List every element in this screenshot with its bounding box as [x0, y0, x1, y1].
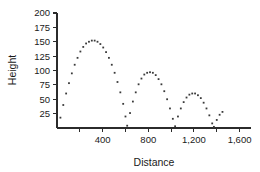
data-point	[211, 123, 213, 125]
data-point	[155, 74, 157, 76]
data-point	[138, 83, 140, 85]
data-point	[216, 119, 218, 121]
data-point	[129, 112, 131, 114]
y-tick-label: 25	[39, 108, 50, 119]
data-point	[71, 72, 73, 74]
data-point	[82, 46, 84, 48]
data-point	[174, 125, 176, 127]
data-point	[143, 74, 145, 76]
data-point	[88, 41, 90, 43]
data-point	[79, 51, 81, 53]
x-axis-title: Distance	[134, 156, 175, 168]
y-tick-label: 50	[39, 94, 50, 105]
data-point	[105, 51, 107, 53]
data-point	[208, 114, 210, 116]
data-point	[222, 111, 224, 113]
data-point	[125, 116, 127, 118]
y-axis-title: Height	[6, 55, 18, 85]
data-point	[97, 41, 99, 43]
data-point	[194, 93, 196, 95]
data-point	[200, 97, 202, 99]
data-point	[203, 102, 205, 104]
data-point	[91, 40, 93, 42]
data-point	[186, 97, 188, 99]
data-point	[62, 104, 64, 106]
data-point-series	[60, 40, 224, 128]
data-point	[183, 101, 185, 103]
y-tick-label: 125	[34, 51, 50, 62]
data-point	[135, 91, 137, 93]
data-point	[158, 78, 160, 80]
y-axis-tick-labels: 255075100125150175200	[34, 7, 50, 119]
data-point	[152, 72, 154, 74]
data-point	[122, 103, 124, 105]
data-point	[141, 78, 143, 80]
y-tick-label: 150	[34, 36, 50, 47]
data-point	[149, 71, 151, 73]
x-tick-label: 800	[140, 134, 156, 145]
data-point	[188, 94, 190, 96]
bouncing-ball-scatter-chart: 255075100125150175200 4008001,2001,600 D…	[0, 0, 260, 172]
data-point	[74, 64, 76, 66]
data-point	[163, 90, 165, 92]
data-point	[172, 118, 174, 120]
data-point	[191, 93, 193, 95]
data-point	[117, 81, 119, 83]
data-point	[65, 93, 67, 95]
x-tick-label: 1,200	[182, 134, 206, 145]
data-point	[161, 83, 163, 85]
x-tick-label: 1,600	[228, 134, 252, 145]
data-point	[111, 64, 113, 66]
data-point	[166, 98, 168, 100]
data-point	[85, 43, 87, 45]
data-point	[197, 94, 199, 96]
data-point	[60, 117, 62, 119]
data-point	[119, 91, 121, 93]
data-point	[180, 108, 182, 110]
data-point	[169, 108, 171, 110]
data-point	[77, 57, 79, 59]
data-point	[213, 126, 215, 128]
data-point	[146, 72, 148, 74]
data-point	[108, 57, 110, 59]
data-point	[68, 82, 70, 84]
x-tick-label: 400	[95, 134, 111, 145]
data-point	[114, 72, 116, 74]
plot-axes	[57, 13, 251, 128]
data-point	[219, 114, 221, 116]
data-point	[102, 47, 104, 49]
y-tick-label: 200	[34, 7, 50, 18]
data-point	[99, 43, 101, 45]
data-point	[94, 40, 96, 42]
y-tick-label: 175	[34, 22, 50, 33]
data-point	[177, 116, 179, 118]
data-point	[206, 108, 208, 110]
y-tick-label: 75	[39, 79, 50, 90]
data-point	[126, 125, 128, 127]
data-point	[132, 101, 134, 103]
chart-container: 255075100125150175200 4008001,2001,600 D…	[0, 0, 260, 172]
x-axis-tick-labels: 4008001,2001,600	[95, 134, 252, 145]
y-tick-label: 100	[34, 65, 50, 76]
